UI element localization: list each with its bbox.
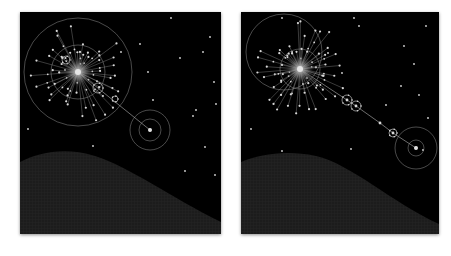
leaf-node <box>93 104 95 106</box>
leaf-node <box>67 103 69 105</box>
leaf-node <box>76 51 78 53</box>
leaf-node <box>98 50 100 52</box>
satellite-node <box>389 135 391 137</box>
leaf-node <box>263 76 265 78</box>
star-dot <box>192 115 194 117</box>
star-dot <box>179 57 181 59</box>
star-dot <box>250 128 252 130</box>
hill-silhouette <box>241 153 439 234</box>
leaf-node <box>319 30 321 32</box>
leaf-node <box>66 94 68 96</box>
leaf-node <box>50 93 52 95</box>
star-dot <box>184 170 186 172</box>
leaf-node <box>112 56 114 58</box>
leaf-node <box>272 103 274 105</box>
star-dot <box>425 25 427 27</box>
mid-node <box>277 73 279 75</box>
leaf-node <box>299 20 301 22</box>
leaf-node <box>52 49 54 51</box>
satellite-node <box>93 84 95 86</box>
star-dot <box>215 103 217 105</box>
satellite-node <box>66 55 68 57</box>
satellite-node <box>342 96 344 98</box>
leaf-node <box>52 69 54 71</box>
satellite-node <box>62 57 64 59</box>
satellite-node <box>360 105 362 107</box>
leaf-node <box>308 108 310 110</box>
hub-node <box>297 66 303 72</box>
satellite-node <box>357 100 359 102</box>
hill-silhouette <box>20 151 221 234</box>
leaf-node <box>316 84 318 86</box>
mid-node <box>96 80 98 82</box>
leaf-node <box>298 105 300 107</box>
leaf-node <box>273 86 275 88</box>
satellite-node <box>99 82 101 84</box>
leaf-node <box>47 86 49 88</box>
satellite-node <box>342 102 344 104</box>
leaf-node <box>54 83 56 85</box>
leaf-node <box>279 49 281 51</box>
leaf-node <box>99 70 101 72</box>
leaf-node <box>98 86 100 88</box>
leaf-node <box>304 92 306 94</box>
star-dot <box>202 51 204 53</box>
leaf-node <box>314 29 316 31</box>
star-dot <box>204 146 206 148</box>
leaf-node <box>286 54 288 56</box>
mid-node <box>313 42 315 44</box>
leaf-node <box>48 99 50 101</box>
star-dot <box>353 17 355 19</box>
star-dot <box>418 94 420 96</box>
leaf-node <box>117 90 119 92</box>
satellite-node <box>117 98 119 100</box>
star-dot <box>214 174 216 176</box>
satellite-node <box>99 92 101 94</box>
mid-node <box>324 79 326 81</box>
leaf-node <box>65 100 67 102</box>
satellite-node <box>62 62 64 64</box>
leaf-node <box>256 71 258 73</box>
leaf-node <box>338 64 340 66</box>
mid-node <box>319 84 321 86</box>
mid-node <box>99 67 101 69</box>
star-dot <box>403 45 405 47</box>
leaf-node <box>98 59 100 61</box>
mid-node <box>85 89 87 91</box>
secondary-hub-node <box>148 128 152 132</box>
leaf-node <box>342 87 344 89</box>
leaf-node <box>67 88 69 90</box>
mid-node <box>323 58 325 60</box>
star-dot <box>213 81 215 83</box>
leaf-node <box>290 93 292 95</box>
leaf-node <box>297 22 299 24</box>
hub-node <box>75 69 81 75</box>
leaf-node <box>58 71 60 73</box>
leaf-node <box>328 31 330 33</box>
left-graph-panel <box>20 12 221 234</box>
satellite-node <box>93 90 95 92</box>
leaf-node <box>288 52 290 54</box>
satellite-node <box>112 100 114 102</box>
leaf-node <box>113 64 115 66</box>
satellite-node <box>351 102 353 104</box>
leaf-node <box>327 47 329 49</box>
mid-node <box>323 73 325 75</box>
leaf-node <box>109 77 111 79</box>
leaf-node <box>112 107 114 109</box>
leaf-node <box>278 52 280 54</box>
leaf-node <box>30 75 32 77</box>
satellite-node <box>112 96 114 98</box>
star-dot <box>195 109 197 111</box>
leaf-node <box>335 53 337 55</box>
leaf-node <box>70 25 72 27</box>
right-graph-canvas <box>241 12 439 234</box>
leaf-node <box>56 30 58 32</box>
mid-node <box>46 82 48 84</box>
star-dot <box>413 63 415 65</box>
leaf-node <box>266 66 268 68</box>
satellite-node <box>348 94 350 96</box>
leaf-node <box>315 108 317 110</box>
star-dot <box>27 128 29 130</box>
leaf-node <box>48 55 50 57</box>
